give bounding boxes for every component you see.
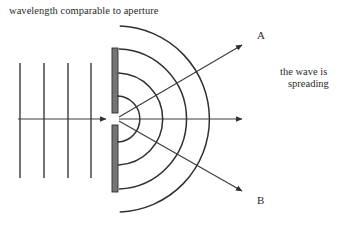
diffraction-figure: wavelength comparable to aperture A B th… <box>0 0 343 225</box>
barrier-upper-segment <box>112 48 118 113</box>
outgoing-ray-b <box>119 121 242 191</box>
barrier-lower-segment <box>112 125 118 192</box>
plane-wavefront-group <box>20 63 91 178</box>
diagram-canvas <box>0 0 343 225</box>
outgoing-ray-group <box>119 45 242 191</box>
barrier-icon <box>112 48 118 192</box>
outgoing-ray-a <box>119 45 242 117</box>
